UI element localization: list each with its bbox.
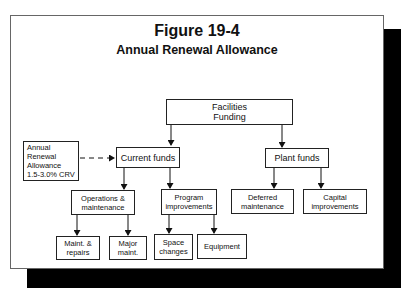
node-annual-renewal-allowance: Annual Renewal Allowance 1.5-3.0% CRV xyxy=(23,141,79,181)
node-program-improvements: Program improvements xyxy=(161,189,217,215)
node-deferred-maintenance: Deferred maintenance xyxy=(231,189,294,214)
node-space-changes: Space changes xyxy=(154,234,193,260)
node-facilities-funding: Facilities Funding xyxy=(166,99,293,125)
node-major-maint: Major maint. xyxy=(109,236,147,260)
node-maint-repairs: Maint. & repairs xyxy=(56,236,100,260)
node-current-funds: Current funds xyxy=(116,147,180,168)
node-operations-maintenance: Operations & maintenance xyxy=(71,190,135,215)
node-plant-funds: Plant funds xyxy=(265,148,329,168)
node-capital-improvements: Capital improvements xyxy=(303,189,367,214)
node-equipment: Equipment xyxy=(197,234,247,259)
